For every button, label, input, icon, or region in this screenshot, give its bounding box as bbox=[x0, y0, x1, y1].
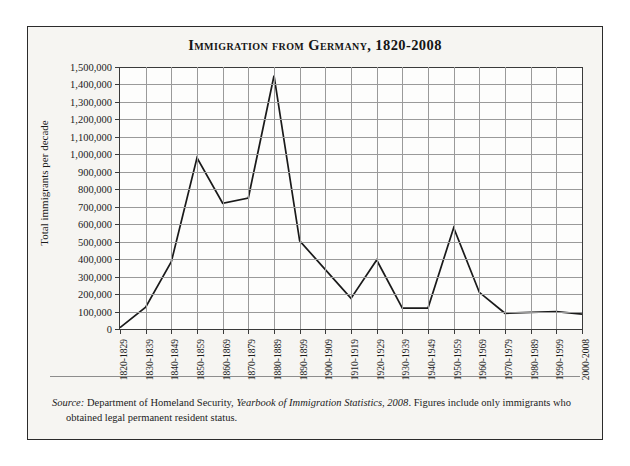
x-axis-tick-label: 1970-1979 bbox=[504, 339, 514, 380]
gridline-vertical bbox=[479, 67, 480, 329]
plot-area: 0100,000200,000300,000400,000500,000600,… bbox=[119, 67, 582, 330]
x-axis-tick bbox=[402, 329, 403, 334]
x-axis-tick-label: 1910-1919 bbox=[350, 339, 360, 380]
gridline-vertical bbox=[223, 67, 224, 329]
y-axis-tick-label: 0 bbox=[107, 324, 112, 335]
y-axis-tick-label: 800,000 bbox=[78, 184, 112, 195]
x-axis-tick bbox=[556, 329, 557, 334]
y-axis-tick bbox=[115, 277, 120, 278]
x-axis-tick bbox=[428, 329, 429, 334]
x-axis-tick bbox=[197, 329, 198, 334]
y-axis-tick-label: 400,000 bbox=[78, 254, 112, 265]
y-axis-tick bbox=[115, 294, 120, 295]
x-axis-tick-label: 1850-1859 bbox=[196, 339, 206, 380]
x-axis-tick bbox=[582, 329, 583, 334]
y-axis-tick bbox=[115, 259, 120, 260]
x-axis-tick-label: 2000-2008 bbox=[581, 339, 591, 380]
source-divider bbox=[50, 376, 580, 377]
x-axis-tick-label: 1920-1929 bbox=[376, 339, 386, 380]
y-axis-tick bbox=[115, 84, 120, 85]
y-axis-tick bbox=[115, 172, 120, 173]
gridline-vertical bbox=[454, 67, 455, 329]
y-axis-tick bbox=[115, 154, 120, 155]
y-axis-tick-label: 1,100,000 bbox=[70, 131, 112, 142]
x-axis-tick bbox=[120, 329, 121, 334]
y-axis-tick bbox=[115, 189, 120, 190]
y-axis-tick-label: 1,000,000 bbox=[70, 149, 112, 160]
x-axis-tick-label: 1940-1949 bbox=[427, 339, 437, 380]
gridline-vertical bbox=[402, 67, 403, 329]
x-axis-tick bbox=[531, 329, 532, 334]
x-axis-tick bbox=[377, 329, 378, 334]
x-axis-tick bbox=[300, 329, 301, 334]
y-axis-title: Total immigrants per decade bbox=[38, 93, 50, 273]
y-axis-tick bbox=[115, 312, 120, 313]
source-label: Source: bbox=[52, 397, 84, 408]
gridline-vertical bbox=[556, 67, 557, 329]
x-axis-tick-label: 1830-1839 bbox=[145, 339, 155, 380]
y-axis-tick-label: 500,000 bbox=[78, 236, 112, 247]
y-axis-tick bbox=[115, 102, 120, 103]
x-axis-tick bbox=[274, 329, 275, 334]
y-axis-tick bbox=[115, 224, 120, 225]
x-axis-tick-label: 1930-1939 bbox=[401, 339, 411, 380]
gridline-vertical bbox=[248, 67, 249, 329]
source-qualifier: . Figures include only immigrants who bbox=[408, 397, 571, 408]
source-continuation: obtained legal permanent resident status… bbox=[52, 410, 578, 425]
x-axis-tick-label: 1890-1899 bbox=[299, 339, 309, 380]
x-axis-tick bbox=[479, 329, 480, 334]
y-axis-tick-label: 1,400,000 bbox=[70, 79, 112, 90]
x-axis-tick-label: 1980-1989 bbox=[530, 339, 540, 380]
gridline-vertical bbox=[505, 67, 506, 329]
x-axis-tick-label: 1820-1829 bbox=[119, 339, 129, 380]
x-axis-tick-label: 1840-1849 bbox=[170, 339, 180, 380]
gridline-vertical bbox=[171, 67, 172, 329]
gridline-vertical bbox=[274, 67, 275, 329]
x-axis-tick-label: 1950-1959 bbox=[453, 339, 463, 380]
y-axis-tick-label: 1,200,000 bbox=[70, 114, 112, 125]
x-axis-tick bbox=[325, 329, 326, 334]
source-publication: Yearbook of Immigration Statistics, 2008 bbox=[236, 397, 408, 408]
gridline-vertical bbox=[197, 67, 198, 329]
gridline-vertical bbox=[146, 67, 147, 329]
x-axis-tick-label: 1880-1889 bbox=[273, 339, 283, 380]
y-axis-tick bbox=[115, 207, 120, 208]
source-note: Source: Department of Homeland Security,… bbox=[52, 395, 578, 425]
x-axis-tick-label: 1960-1969 bbox=[478, 339, 488, 380]
source-agency: Department of Homeland Security, bbox=[84, 397, 236, 408]
y-axis-tick-label: 200,000 bbox=[78, 289, 112, 300]
x-axis-tick bbox=[248, 329, 249, 334]
x-axis-tick-label: 1990-1999 bbox=[555, 339, 565, 380]
x-axis-tick bbox=[351, 329, 352, 334]
chart-figure: Immigration from Germany, 1820-2008 Tota… bbox=[27, 26, 603, 440]
y-axis-tick-label: 1,500,000 bbox=[70, 62, 112, 73]
gridline-vertical bbox=[325, 67, 326, 329]
x-axis-tick bbox=[171, 329, 172, 334]
chart-title: Immigration from Germany, 1820-2008 bbox=[28, 37, 602, 54]
y-axis-tick bbox=[115, 242, 120, 243]
x-axis-tick bbox=[454, 329, 455, 334]
x-axis-tick-label: 1870-1879 bbox=[247, 339, 257, 380]
y-axis-tick-label: 1,300,000 bbox=[70, 96, 112, 107]
x-axis-tick bbox=[223, 329, 224, 334]
x-axis-tick bbox=[146, 329, 147, 334]
gridline-vertical bbox=[351, 67, 352, 329]
y-axis-tick-label: 600,000 bbox=[78, 219, 112, 230]
x-axis-tick-label: 1860-1869 bbox=[222, 339, 232, 380]
y-axis-tick bbox=[115, 67, 120, 68]
y-axis-tick-label: 700,000 bbox=[78, 201, 112, 212]
gridline-vertical bbox=[300, 67, 301, 329]
y-axis-tick-label: 300,000 bbox=[78, 271, 112, 282]
gridline-vertical bbox=[428, 67, 429, 329]
gridline-vertical bbox=[377, 67, 378, 329]
x-axis-tick bbox=[505, 329, 506, 334]
y-axis-tick-label: 100,000 bbox=[78, 306, 112, 317]
y-axis-tick bbox=[115, 137, 120, 138]
gridline-vertical bbox=[582, 67, 583, 329]
y-axis-tick bbox=[115, 119, 120, 120]
y-axis-tick-label: 900,000 bbox=[78, 166, 112, 177]
x-axis-tick-label: 1900-1909 bbox=[324, 339, 334, 380]
gridline-vertical bbox=[531, 67, 532, 329]
